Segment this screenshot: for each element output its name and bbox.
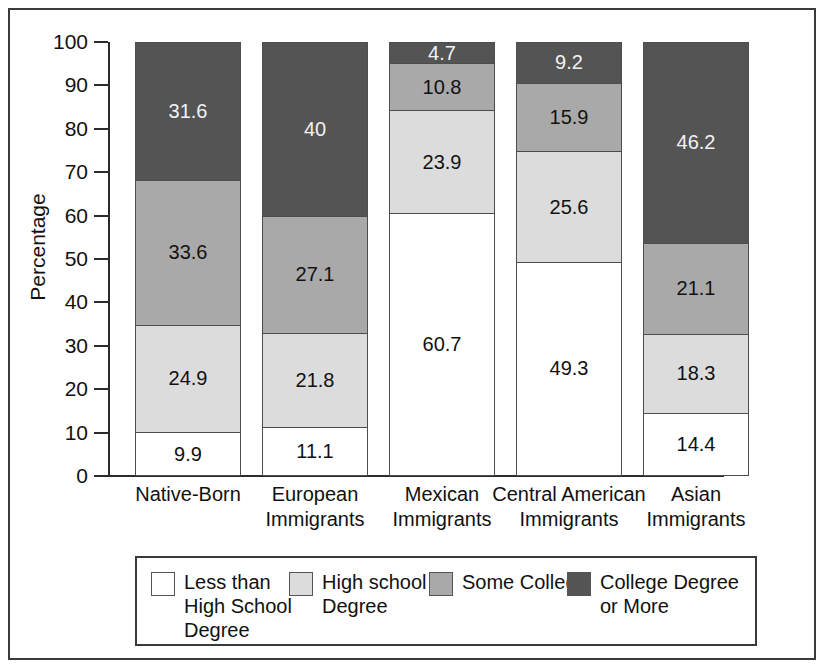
legend-swatch-icon	[289, 572, 313, 596]
legend-swatch-icon	[429, 572, 453, 596]
y-tick-label: 100	[22, 31, 88, 52]
legend-label: High school Degree	[322, 570, 427, 618]
bar-segment: 4.7	[390, 43, 494, 63]
bar-segment: 15.9	[517, 83, 621, 152]
bar-segment-value: 10.8	[423, 76, 462, 99]
y-tick-label: 80	[22, 118, 88, 139]
y-tick-label: 70	[22, 161, 88, 182]
legend-entry[interactable]: Some College	[429, 570, 588, 596]
y-tick-mark	[94, 475, 108, 477]
y-tick-mark	[94, 388, 108, 390]
y-tick-label: 0	[22, 465, 88, 486]
stacked-bar: 31.633.624.99.9	[135, 42, 241, 476]
bar-segment: 25.6	[517, 151, 621, 262]
bar-segment-value: 21.1	[677, 277, 716, 300]
stacked-bar: 4.710.823.960.7	[389, 42, 495, 476]
bar-segment: 23.9	[390, 110, 494, 213]
legend-swatch-icon	[151, 572, 175, 596]
bar-segment-value: 11.1	[296, 440, 333, 463]
bar-segment: 27.1	[263, 216, 367, 333]
y-tick-mark	[94, 128, 108, 130]
y-tick-label: 20	[22, 378, 88, 399]
bar-segment-value: 49.3	[550, 357, 589, 380]
bar-segment-value: 33.6	[169, 241, 208, 264]
y-tick-label: 60	[22, 205, 88, 226]
bar-segment: 46.2	[644, 43, 748, 243]
legend-entry[interactable]: High school Degree	[289, 570, 427, 618]
bar-segment-value: 40	[304, 118, 326, 141]
y-tick-label: 10	[22, 422, 88, 443]
legend-entry[interactable]: College Degree or More	[567, 570, 739, 618]
bar-segment: 9.2	[517, 43, 621, 83]
bar-segment: 60.7	[390, 213, 494, 475]
bar-segment-value: 14.4	[677, 433, 716, 456]
figure-frame: Percentage 1009080706050403020100 31.633…	[8, 8, 816, 660]
bar-segment: 49.3	[517, 262, 621, 475]
bar-segment-value: 4.7	[428, 43, 456, 63]
y-axis-tick-labels: 1009080706050403020100	[10, 10, 88, 510]
y-tick-label: 90	[22, 74, 88, 95]
bar-segment: 10.8	[390, 63, 494, 110]
bar-segment: 18.3	[644, 334, 748, 413]
y-tick-mark	[94, 345, 108, 347]
y-tick-mark	[94, 258, 108, 260]
legend-swatch-icon	[567, 572, 591, 596]
y-tick-label: 30	[22, 335, 88, 356]
legend-box: Less than High School DegreeHigh school …	[135, 556, 757, 646]
bar-segment: 21.8	[263, 333, 367, 427]
bar-segment: 14.4	[644, 413, 748, 475]
bar-segment: 40	[263, 43, 367, 216]
bar-segment-value: 31.6	[169, 100, 208, 123]
stacked-bar: 9.215.925.649.3	[516, 42, 622, 476]
bar-segment-value: 25.6	[550, 196, 589, 219]
bar-segment-value: 46.2	[677, 131, 716, 154]
y-tick-mark	[94, 432, 108, 434]
bar-segment: 24.9	[136, 325, 240, 433]
bar-segment: 31.6	[136, 43, 240, 180]
bar-segment-value: 23.9	[423, 151, 462, 174]
bar-segment: 9.9	[136, 432, 240, 475]
bar-segment-value: 9.2	[555, 51, 583, 74]
bar-segment: 33.6	[136, 180, 240, 325]
y-tick-label: 40	[22, 291, 88, 312]
bar-segment-value: 9.9	[174, 443, 202, 466]
bar-segment-value: 18.3	[677, 362, 716, 385]
stacked-bar: 46.221.118.314.4	[643, 42, 749, 476]
legend-label: Less than High School Degree	[184, 570, 292, 642]
stacked-bar: 4027.121.811.1	[262, 42, 368, 476]
chart-area: Percentage 1009080706050403020100 31.633…	[10, 10, 818, 550]
bar-segment: 21.1	[644, 243, 748, 334]
y-tick-mark	[94, 215, 108, 217]
bar-segment-value: 27.1	[296, 263, 335, 286]
y-tick-label: 50	[22, 248, 88, 269]
y-tick-mark	[94, 84, 108, 86]
bar-segment-value: 60.7	[423, 333, 462, 356]
plot-bars: 31.633.624.99.94027.121.811.14.710.823.9…	[110, 42, 724, 476]
y-tick-mark	[94, 301, 108, 303]
bar-segment: 11.1	[263, 427, 367, 475]
y-tick-mark	[94, 171, 108, 173]
bar-segment-value: 24.9	[169, 367, 208, 390]
bar-segment-value: 15.9	[550, 106, 589, 129]
legend-entry[interactable]: Less than High School Degree	[151, 570, 292, 642]
x-axis-tick-labels: Native-BornEuropeanImmigrantsMexicanImmi…	[110, 482, 724, 544]
legend-label: College Degree or More	[600, 570, 739, 618]
bar-segment-value: 21.8	[296, 369, 335, 392]
y-tick-mark	[94, 41, 108, 43]
x-tick-label: AsianImmigrants	[612, 482, 780, 532]
